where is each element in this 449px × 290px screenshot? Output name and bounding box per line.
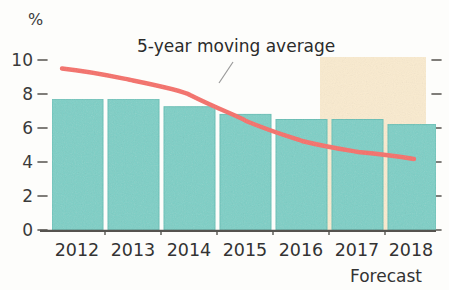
y-tick-label-0: 0: [22, 220, 33, 240]
bar-2015: [220, 114, 271, 230]
bar-2018: [388, 125, 436, 230]
bar-2017: [332, 120, 383, 231]
x-tick-label-2013: 2013: [111, 240, 156, 260]
chart-container: % 10 8 6 4 2 0 5-year moving average: [0, 0, 449, 290]
forecast-label: Forecast: [350, 266, 422, 286]
y-tick-label-2: 2: [22, 186, 33, 206]
y-axis-unit-label: %: [28, 10, 43, 29]
x-tick-label-2014: 2014: [167, 240, 212, 260]
bar-2014: [164, 107, 215, 230]
x-tick-label-2015: 2015: [223, 240, 268, 260]
moving-average-label: 5-year moving average: [137, 36, 335, 56]
x-tick-label-2016: 2016: [279, 240, 324, 260]
bar-2012: [52, 99, 103, 230]
y-tick-label-4: 4: [22, 152, 33, 172]
x-tick-label-2017: 2017: [335, 240, 380, 260]
y-tick-label-8: 8: [22, 84, 33, 104]
y-tick-label-10: 10: [11, 50, 33, 70]
bar-2013: [108, 99, 159, 230]
y-tick-label-6: 6: [22, 118, 33, 138]
bar-chart-svg: % 10 8 6 4 2 0 5-year moving average: [0, 0, 449, 290]
x-tick-label-2018: 2018: [389, 240, 434, 260]
x-tick-label-2012: 2012: [55, 240, 100, 260]
